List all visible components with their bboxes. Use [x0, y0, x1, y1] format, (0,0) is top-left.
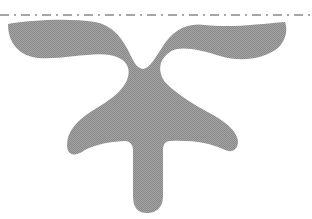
sprout-glyph-icon	[0, 0, 312, 219]
figure-canvas	[0, 0, 312, 219]
sprout-shape	[8, 20, 286, 213]
